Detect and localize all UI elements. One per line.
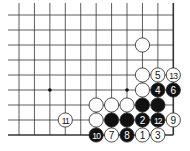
white-stone [89, 113, 103, 127]
black-stone-6: 6 [166, 83, 180, 97]
black-stone [135, 98, 149, 112]
black-stone-4: 4 [151, 83, 165, 97]
move-number: 5 [155, 70, 161, 81]
white-stone-7: 7 [104, 128, 118, 142]
move-number: 13 [169, 71, 178, 81]
move-number: 12 [154, 116, 163, 126]
white-stone-11: 11 [58, 113, 72, 127]
white-stone [89, 98, 103, 112]
white-stone-1: 1 [135, 128, 149, 142]
white-stone-9: 9 [166, 113, 180, 127]
star-point [125, 88, 129, 92]
move-number: 11 [62, 116, 70, 126]
black-stone [151, 98, 165, 112]
star-point [48, 88, 52, 92]
move-number: 3 [155, 130, 161, 141]
white-stone [135, 38, 149, 52]
white-stone-13: 13 [166, 68, 180, 82]
move-number: 9 [171, 115, 177, 126]
move-number: 4 [155, 85, 161, 96]
black-stone-10: 10 [89, 128, 103, 142]
move-number: 2 [140, 115, 146, 126]
white-stone-3: 3 [151, 128, 165, 142]
black-stone [104, 113, 118, 127]
black-stone [120, 113, 134, 127]
move-number: 1 [140, 130, 146, 141]
white-stone [120, 98, 134, 112]
go-board-diagram: 51346112129107813 [0, 0, 190, 151]
black-stone-8: 8 [120, 128, 134, 142]
black-stone-12: 12 [151, 113, 165, 127]
black-stone-2: 2 [135, 113, 149, 127]
move-number: 10 [92, 131, 101, 141]
white-stone [104, 98, 118, 112]
white-stone [135, 68, 149, 82]
move-number: 8 [124, 130, 130, 141]
move-number: 6 [171, 85, 177, 96]
white-stone [135, 83, 149, 97]
white-stone-5: 5 [151, 68, 165, 82]
move-number: 7 [109, 130, 115, 141]
